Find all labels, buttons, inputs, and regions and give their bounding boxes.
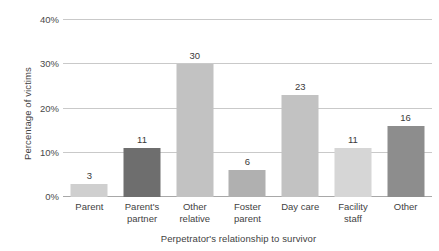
y-axis-tick-label: 20% <box>25 104 59 114</box>
bar[interactable] <box>124 148 161 197</box>
bars: 311306231116 <box>63 20 432 197</box>
bar-value-label: 23 <box>295 81 306 92</box>
x-axis-tick-label: Other <box>379 201 432 213</box>
bar-value-label: 11 <box>137 134 147 145</box>
x-axis-tick-label: Parent's partner <box>116 201 169 224</box>
bar-value-label: 30 <box>189 50 200 61</box>
bar[interactable] <box>71 184 108 197</box>
bar-value-label: 16 <box>400 112 411 123</box>
bar-value-label: 11 <box>348 134 358 145</box>
y-axis-tick-label: 40% <box>25 15 59 25</box>
y-axis-tick-label: 0% <box>25 192 59 202</box>
x-axis-title: Perpetrator's relationship to survivor <box>0 233 439 244</box>
bar-chart: Percentage of victims 40%30%20%10%0% 311… <box>0 0 439 251</box>
bar[interactable] <box>387 126 424 197</box>
y-axis-tick-label: 10% <box>25 148 59 158</box>
bar-group[interactable]: 6 <box>221 20 274 197</box>
bar-group[interactable]: 16 <box>379 20 432 197</box>
bar[interactable] <box>176 64 213 197</box>
bar-group[interactable]: 11 <box>327 20 380 197</box>
y-axis-tick-labels: 40%30%20%10%0% <box>23 20 59 197</box>
y-axis-tick-label: 30% <box>25 59 59 69</box>
bar-group[interactable]: 30 <box>168 20 221 197</box>
bar-group[interactable]: 11 <box>116 20 169 197</box>
x-axis-tick-label: Day care <box>274 201 327 213</box>
bar[interactable] <box>282 95 319 197</box>
bar[interactable] <box>229 170 266 197</box>
bar[interactable] <box>334 148 371 197</box>
x-axis-tick-label: Parent <box>63 201 116 213</box>
x-axis-tick-labels: ParentParent's partnerOther relativeFost… <box>63 201 432 235</box>
x-axis-tick-label: Foster parent <box>221 201 274 224</box>
bar-value-label: 6 <box>245 156 250 167</box>
bar-group[interactable]: 23 <box>274 20 327 197</box>
plot-area: 311306231116 <box>63 20 432 197</box>
bar-value-label: 3 <box>87 170 92 181</box>
x-axis-tick-label: Other relative <box>168 201 221 224</box>
bar-group[interactable]: 3 <box>63 20 116 197</box>
x-axis-tick-label: Facility staff <box>327 201 380 224</box>
